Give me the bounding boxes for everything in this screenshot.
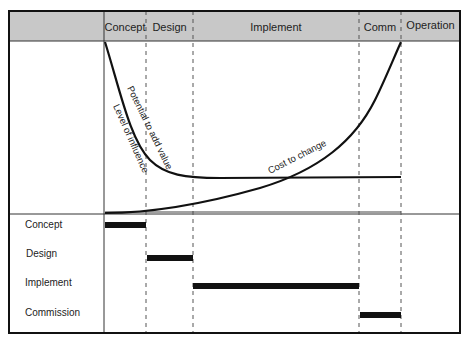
row-label-commission: Commission (25, 307, 80, 318)
header-comm: Comm (359, 14, 401, 40)
cost-label: Cost to change (266, 137, 328, 176)
header-design: Design (146, 14, 193, 40)
row-label-design: Design (26, 248, 57, 259)
header-concept: Concept (104, 14, 146, 40)
header-operation: Operation (401, 12, 460, 38)
row-label-concept: Concept (25, 219, 62, 230)
lifecycle-diagram: Potential to add value Level of influenc… (0, 0, 469, 344)
header-implement: Implement (193, 14, 359, 40)
bar-commission (360, 312, 401, 318)
bar-implement (193, 283, 359, 289)
bar-concept (105, 222, 146, 228)
row-label-implement: Implement (25, 277, 72, 288)
influence-curve (105, 42, 401, 178)
bar-design (147, 255, 193, 261)
schedule-bars (105, 222, 401, 318)
